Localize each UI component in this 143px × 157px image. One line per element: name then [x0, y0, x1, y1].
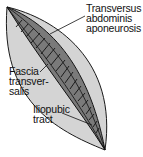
label-line: salis: [9, 86, 49, 96]
label-iliopubic-tract: Iliopubic tract: [33, 104, 70, 124]
label-fascia-transversalis: Fascia transver- salis: [9, 66, 49, 96]
label-line: tract: [33, 114, 70, 124]
label-transversus-abdominis-aponeurosis: Transversus abdominis aponeurosis: [86, 3, 141, 33]
leader-transversus: [50, 16, 85, 34]
label-line: aponeurosis: [86, 23, 141, 33]
